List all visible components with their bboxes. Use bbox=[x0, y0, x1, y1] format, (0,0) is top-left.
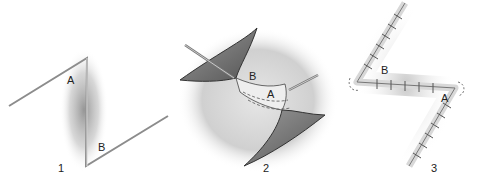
flap-label-a: A bbox=[67, 74, 75, 86]
z-plasty-illustration: A B 1 B A 2 bbox=[0, 0, 484, 179]
panel-3: B A 3 bbox=[349, 3, 464, 174]
panel-number-3: 3 bbox=[431, 162, 437, 174]
panel-number-2: 2 bbox=[263, 162, 269, 174]
panel-1: A B 1 bbox=[9, 48, 168, 174]
flap-label-b: B bbox=[381, 64, 388, 76]
incision-shadow bbox=[60, 48, 108, 172]
panel-number-1: 1 bbox=[58, 162, 64, 174]
flap-label-b: B bbox=[249, 70, 256, 82]
flap-label-b: B bbox=[98, 141, 105, 153]
panel-2: B A 2 bbox=[178, 28, 338, 174]
flap-label-a: A bbox=[267, 88, 275, 100]
flap-label-a: A bbox=[441, 92, 449, 104]
